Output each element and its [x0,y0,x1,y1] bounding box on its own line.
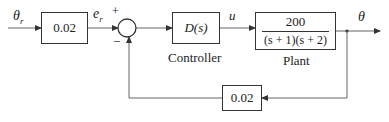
controller-caption: Controller [168,50,221,66]
input-gain-block: 0.02 [41,12,88,44]
input-gain-value: 0.02 [53,20,76,36]
plus-sign: + [112,4,119,19]
reference-signal-label: θr [13,8,23,26]
plant-numerator: 200 [262,15,329,32]
feedback-gain-block: 0.02 [222,85,262,111]
control-signal-label: u [229,8,236,24]
error-signal-label: er [93,6,103,24]
feedback-gain-value: 0.02 [231,90,254,106]
output-signal-label: θ [358,9,365,25]
plant-transfer-function: 200 (s + 1)(s + 2) [264,15,327,47]
summing-junction [118,19,136,37]
plant-denominator: (s + 1)(s + 2) [264,32,327,47]
plant-block: 200 (s + 1)(s + 2) [255,12,336,50]
plant-caption: Plant [283,53,310,69]
controller-transfer-function: D(s) [184,20,207,36]
minus-sign: − [113,34,120,50]
controller-block: D(s) [172,12,220,44]
